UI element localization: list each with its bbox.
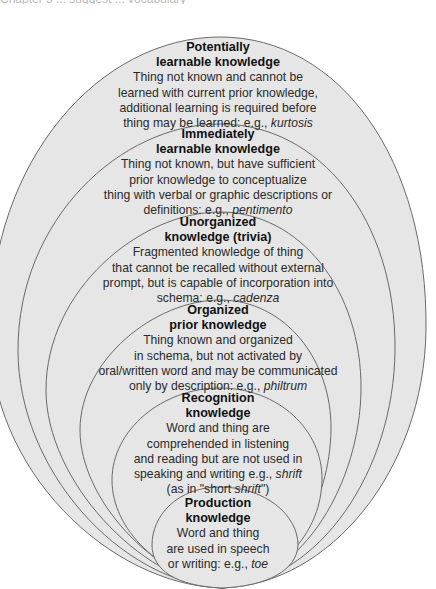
level-desc: and reading but are not used in bbox=[0, 452, 436, 467]
level-title: knowledge bbox=[0, 406, 436, 421]
level-desc: prior knowledge to conceptualize bbox=[0, 173, 436, 188]
level-desc: Thing known and organized bbox=[0, 333, 436, 348]
level-desc: Thing not known, but have sufficient bbox=[0, 157, 436, 172]
level-title: Organized bbox=[0, 303, 436, 318]
level-desc: ") bbox=[261, 482, 269, 496]
level-recognition-knowledge: Recognition knowledge Word and thing are… bbox=[0, 391, 436, 497]
level-desc: Word and thing are bbox=[0, 421, 436, 436]
level-desc: prompt, but is capable of incorporation … bbox=[0, 276, 436, 291]
level-title: Production bbox=[0, 496, 436, 511]
level-desc: in schema, but not activated by bbox=[0, 349, 436, 364]
example-word: shrift bbox=[276, 467, 302, 481]
level-desc: Fragmented knowledge of thing bbox=[0, 245, 436, 260]
level-title: prior knowledge bbox=[0, 318, 436, 333]
level-desc: that cannot be recalled without external bbox=[0, 261, 436, 276]
level-title: Immediately bbox=[0, 127, 436, 142]
level-production-knowledge: Production knowledge Word and thing are … bbox=[0, 496, 436, 572]
level-title: Potentially bbox=[0, 40, 436, 55]
level-desc: oral/written word and may be communicate… bbox=[0, 364, 436, 379]
level-desc: speaking and writing e.g., bbox=[134, 467, 276, 481]
level-potentially-learnable: Potentially learnable knowledge Thing no… bbox=[0, 40, 436, 131]
level-title: knowledge (trivia) bbox=[0, 230, 436, 245]
level-title: learnable knowledge bbox=[0, 55, 436, 70]
level-desc: or writing: e.g., bbox=[168, 557, 251, 571]
level-immediately-learnable: Immediately learnable knowledge Thing no… bbox=[0, 127, 436, 218]
level-desc: additional learning is required before bbox=[0, 101, 436, 116]
level-title: Unorganized bbox=[0, 215, 436, 230]
level-organized-prior-knowledge: Organized prior knowledge Thing known an… bbox=[0, 303, 436, 394]
level-desc: are used in speech bbox=[0, 542, 436, 557]
level-desc: learned with current prior knowledge, bbox=[0, 86, 436, 101]
level-desc: Word and thing bbox=[0, 526, 436, 541]
level-desc: (as in "short bbox=[167, 482, 235, 496]
level-desc: thing with verbal or graphic description… bbox=[0, 188, 436, 203]
level-title: Recognition bbox=[0, 391, 436, 406]
example-word: toe bbox=[251, 557, 268, 571]
example-word: shrift bbox=[235, 482, 261, 496]
level-unorganized-knowledge: Unorganized knowledge (trivia) Fragmente… bbox=[0, 215, 436, 306]
level-desc: Thing not known and cannot be bbox=[0, 70, 436, 85]
level-title: knowledge bbox=[0, 511, 436, 526]
level-desc: comprehended in listening bbox=[0, 437, 436, 452]
level-title: learnable knowledge bbox=[0, 142, 436, 157]
